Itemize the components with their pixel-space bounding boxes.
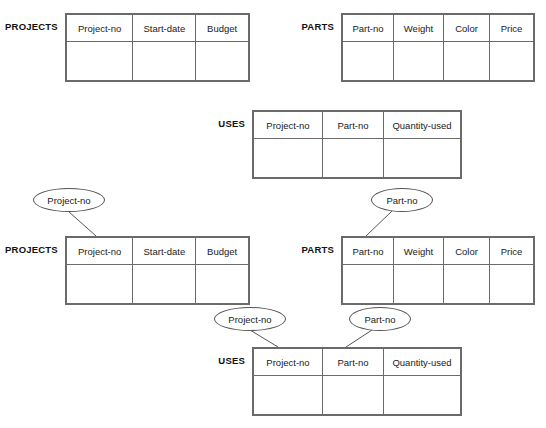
column-header: Weight	[394, 238, 444, 265]
table-row	[254, 376, 461, 415]
table-cell	[254, 139, 323, 178]
column-header: Start-date	[133, 15, 196, 42]
table-cell	[66, 42, 133, 81]
connector-projectno-to-projects	[68, 211, 96, 236]
table-row	[343, 265, 534, 304]
relation-projects-top: PROJECTS Project-no Start-date Budget	[0, 13, 250, 82]
relation-grid-projects-top: Project-no Start-date Budget	[65, 13, 250, 82]
table-cell	[490, 265, 534, 304]
relation-parts-top: PARTS Part-no Weight Color Price	[296, 13, 546, 82]
table-cell	[384, 376, 461, 415]
column-header: Weight	[394, 15, 444, 42]
attribute-node-label: Project-no	[228, 314, 271, 325]
connector-partno-to-parts	[366, 211, 392, 236]
column-header: Project-no	[66, 238, 133, 265]
column-header: Budget	[196, 15, 249, 42]
column-header: Part-no	[323, 112, 384, 139]
attribute-node-project-no-projects[interactable]: Project-no	[33, 188, 105, 212]
table-header-row: Part-no Weight Color Price	[343, 15, 534, 42]
table-row	[343, 42, 534, 81]
attribute-node-label: Part-no	[364, 314, 395, 325]
column-header: Price	[490, 238, 534, 265]
column-header: Part-no	[343, 238, 394, 265]
column-header: Part-no	[343, 15, 394, 42]
attribute-node-label: Project-no	[47, 195, 90, 206]
relation-grid-parts-bottom: Part-no Weight Color Price	[341, 236, 535, 305]
relation-name-projects-bottom: PROJECTS	[0, 236, 65, 255]
table-header-row: Project-no Start-date Budget	[66, 238, 248, 265]
table-cell	[323, 376, 384, 415]
relation-name-uses-top: USES	[208, 110, 252, 129]
table-row	[66, 42, 248, 81]
column-header: Color	[444, 238, 490, 265]
relation-name-parts-bottom: PARTS	[296, 236, 341, 255]
table-cell	[490, 42, 534, 81]
connector-projectno-to-uses	[250, 330, 278, 347]
relation-uses-top: USES Project-no Part-no Quantity-used	[208, 110, 468, 179]
table-header-row: Project-no Start-date Budget	[66, 15, 248, 42]
table-cell	[196, 42, 249, 81]
relation-projects-bottom: PROJECTS Project-no Start-date Budget	[0, 236, 250, 305]
table-cell	[323, 139, 384, 178]
relation-grid-projects-bottom: Project-no Start-date Budget	[65, 236, 250, 305]
table-cell	[444, 265, 490, 304]
table-cell	[343, 42, 394, 81]
table-cell	[66, 265, 133, 304]
column-header: Quantity-used	[384, 349, 461, 376]
table-row	[254, 139, 461, 178]
relation-grid-parts-top: Part-no Weight Color Price	[341, 13, 535, 82]
table-row	[66, 265, 248, 304]
relation-grid-uses-top: Project-no Part-no Quantity-used	[252, 110, 462, 179]
relation-grid-uses-bottom: Project-no Part-no Quantity-used	[252, 347, 462, 416]
table-cell	[444, 42, 490, 81]
relation-name-parts-top: PARTS	[296, 13, 341, 32]
column-header: Budget	[196, 238, 249, 265]
table-cell	[394, 265, 444, 304]
table-cell	[343, 265, 394, 304]
table-cell	[196, 265, 249, 304]
table-cell	[133, 265, 196, 304]
column-header: Part-no	[323, 349, 384, 376]
relation-parts-bottom: PARTS Part-no Weight Color Price	[296, 236, 546, 305]
table-header-row: Project-no Part-no Quantity-used	[254, 349, 461, 376]
relation-name-projects-top: PROJECTS	[0, 13, 65, 32]
column-header: Project-no	[66, 15, 133, 42]
column-header: Project-no	[254, 112, 323, 139]
column-header: Project-no	[254, 349, 323, 376]
column-header: Start-date	[133, 238, 196, 265]
table-cell	[394, 42, 444, 81]
attribute-node-project-no-uses[interactable]: Project-no	[214, 307, 286, 331]
attribute-node-part-no-parts[interactable]: Part-no	[371, 188, 433, 212]
column-header: Quantity-used	[384, 112, 461, 139]
table-cell	[384, 139, 461, 178]
column-header: Color	[444, 15, 490, 42]
diagram-canvas: PROJECTS Project-no Start-date Budget	[0, 0, 546, 428]
attribute-node-label: Part-no	[386, 195, 417, 206]
relation-name-uses-bottom: USES	[208, 347, 252, 366]
table-cell	[133, 42, 196, 81]
table-header-row: Part-no Weight Color Price	[343, 238, 534, 265]
relation-uses-bottom: USES Project-no Part-no Quantity-used	[208, 347, 468, 416]
table-header-row: Project-no Part-no Quantity-used	[254, 112, 461, 139]
table-cell	[254, 376, 323, 415]
connector-partno-to-uses	[346, 330, 372, 347]
attribute-node-part-no-uses[interactable]: Part-no	[349, 307, 411, 331]
column-header: Price	[490, 15, 534, 42]
